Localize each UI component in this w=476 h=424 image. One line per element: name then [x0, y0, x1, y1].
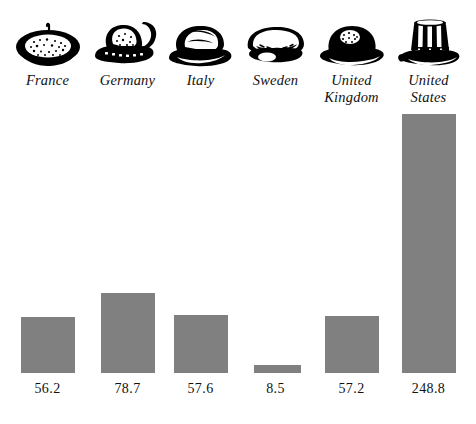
chart-column-sweden: Sweden 8.5	[236, 0, 315, 424]
bar-sweden	[254, 365, 301, 373]
chart-column-france: France 56.2	[8, 0, 87, 424]
fedora-hat-icon	[161, 6, 240, 68]
bowler-hat-icon	[312, 6, 391, 68]
country-label-line2: Kingdom	[324, 89, 379, 105]
uncle-sam-top-hat-icon	[389, 6, 468, 68]
chart-column-united-states: United States 248.8	[389, 0, 468, 424]
tyrolean-hat-icon	[88, 6, 167, 68]
beret-icon	[8, 6, 87, 68]
country-label-line1: Sweden	[253, 72, 299, 88]
bar-chart: France 56.2	[0, 0, 476, 424]
bar-italy	[174, 315, 228, 373]
country-label-line2: States	[411, 89, 447, 105]
bar-germany	[101, 293, 155, 373]
bar-france	[21, 317, 75, 373]
flat-cap-icon	[236, 6, 315, 68]
value-label-united-states: 248.8	[383, 381, 474, 397]
country-label-line1: United	[331, 72, 372, 88]
value-label-france: 56.2	[2, 381, 93, 397]
country-label-france: France	[2, 72, 93, 89]
chart-column-germany: Germany 78.7	[88, 0, 167, 424]
bar-united-kingdom	[325, 316, 379, 373]
country-label-line1: Italy	[187, 72, 215, 88]
country-label-line1: Germany	[100, 72, 155, 88]
chart-column-united-kingdom: United Kingdom 57.2	[312, 0, 391, 424]
chart-column-italy: Italy 57.6	[161, 0, 240, 424]
country-label-line1: United	[408, 72, 449, 88]
country-label-united-states: United States	[383, 72, 474, 106]
bar-united-states	[402, 114, 456, 373]
country-label-line1: France	[26, 72, 69, 88]
